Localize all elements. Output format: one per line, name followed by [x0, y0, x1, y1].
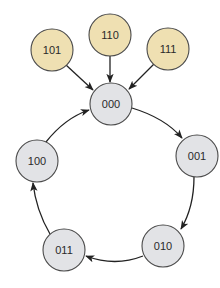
node-010: 010 — [142, 225, 184, 267]
node-100: 100 — [16, 140, 58, 182]
node-label: 100 — [28, 155, 46, 167]
edge-011-100 — [33, 183, 50, 234]
node-001: 001 — [176, 135, 218, 177]
edge-111-000 — [129, 64, 154, 89]
node-111: 111 — [147, 28, 189, 70]
node-label: 111 — [160, 43, 177, 55]
node-101: 101 — [31, 29, 73, 71]
node-label: 110 — [101, 29, 119, 41]
node-110: 110 — [89, 14, 131, 56]
state-diagram: 101 110 111 000 001 010 011 100 — [0, 0, 220, 288]
node-label: 101 — [43, 44, 61, 56]
node-label: 011 — [55, 244, 73, 256]
node-label: 010 — [154, 240, 172, 252]
edge-000-001 — [132, 108, 182, 138]
node-label: 001 — [188, 150, 206, 162]
edge-001-010 — [181, 177, 194, 229]
edge-010-011 — [86, 256, 143, 262]
node-011: 011 — [43, 229, 85, 271]
node-000: 000 — [90, 83, 132, 125]
node-label: 000 — [102, 98, 120, 110]
edge-101-000 — [66, 65, 93, 90]
edge-100-000 — [46, 110, 89, 142]
